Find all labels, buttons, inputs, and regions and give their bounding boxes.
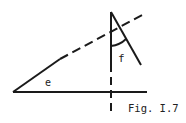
apex-slant-line — [111, 12, 141, 65]
angle-label-e: e — [45, 77, 51, 88]
geometry-figure: e f Fig. I.7 — [0, 0, 186, 123]
angle-label-f: f — [118, 52, 125, 65]
angle-f-arc — [111, 39, 126, 46]
figure-caption: Fig. I.7 — [128, 102, 179, 114]
slanted-line-solid — [13, 59, 60, 92]
